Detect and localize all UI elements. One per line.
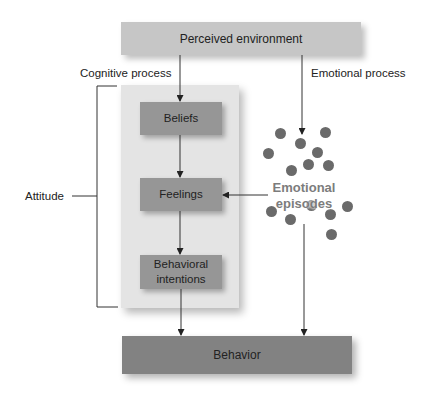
emotion-dot — [312, 147, 323, 158]
emotion-dot — [303, 159, 314, 170]
emotion-dot — [286, 165, 297, 176]
connector-lines — [0, 0, 433, 394]
emotional-episodes-line2: episodes — [262, 196, 346, 212]
emotion-dot — [285, 214, 296, 225]
emotional-episodes-line1: Emotional — [262, 180, 346, 196]
emotion-dot — [326, 229, 337, 240]
emotion-dot — [320, 127, 331, 138]
emotion-dot — [275, 128, 286, 139]
emotion-dot — [263, 148, 274, 159]
emotional-episodes-label: Emotional episodes — [262, 180, 346, 212]
emotion-dot — [323, 160, 334, 171]
emotion-dot — [295, 138, 306, 149]
